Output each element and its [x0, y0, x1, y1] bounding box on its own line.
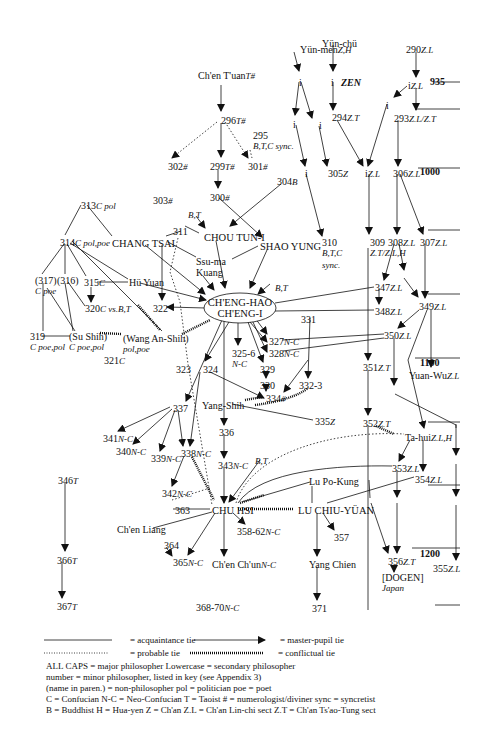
legend-master-pupil: = master-pupil tie [280, 635, 344, 646]
node-n303: 303# [153, 195, 173, 207]
zen-section-label: ZEN [341, 77, 361, 88]
node-n299: 299T# [210, 161, 235, 173]
node-tag: Z.T [347, 113, 359, 123]
node-tag: Z.L [448, 564, 460, 574]
node-text: 303 [153, 195, 168, 206]
node-n320: 320C vs.B,T [85, 303, 131, 315]
node-text: (Su Shih) [69, 331, 107, 342]
chengi-label: CH'ENG-I [207, 308, 273, 319]
node-text: 364 [164, 540, 179, 551]
node-tag: N-C [118, 434, 133, 444]
node-text: 352 [363, 418, 378, 429]
node-bt1: B,T [188, 209, 201, 221]
node-text: 294 [332, 112, 347, 123]
node-text: 330 [260, 380, 275, 391]
node-n340: 340N-C [116, 446, 146, 458]
node-n310b: sync. [322, 259, 340, 271]
node-tag: C [99, 278, 105, 288]
node-chuhsi: CHU HSI [212, 505, 254, 516]
node-text: 363 [175, 505, 190, 516]
node-chenliang: Ch'en Liang [117, 524, 166, 535]
legend-acquaintance: = acquaintance tie [130, 635, 196, 646]
node-n307: 307Z.L [420, 237, 447, 249]
node-text: 300 [210, 192, 225, 203]
node-text: 314 [60, 237, 75, 248]
node-n328: 328N-C [269, 348, 299, 360]
node-subtag: B,T,C sync. [253, 141, 294, 152]
node-n365: 365N-C [173, 557, 203, 569]
ellipse-label: CH'ENG-HAO CH'ENG-I [207, 297, 273, 319]
node-n354: 354Z.L [415, 474, 442, 486]
node-bt2: B,T [275, 282, 288, 294]
node-tahui: Ta-huiZ.L,H [405, 432, 452, 444]
node-n356: 356Z.T [388, 556, 415, 568]
node-chenchun: Ch'en Ch'unN-C [212, 559, 276, 571]
node-text: Hü Yuan [129, 277, 164, 288]
node-n329: 329 [260, 364, 275, 375]
node-text: 354 [415, 474, 430, 485]
node-text: 323 [176, 364, 191, 375]
node-tag: Z [343, 169, 348, 179]
legend-row-sects: B = Buddhist H = Hua-yen Z = Ch'an Z.L =… [46, 705, 376, 716]
node-n322: 322 [153, 303, 168, 314]
node-n305: 305Z [328, 168, 348, 180]
node-text: 365 [173, 557, 188, 568]
node-n357: 357 [334, 532, 349, 543]
node-tag: N-C [131, 447, 146, 457]
node-tag: T [73, 476, 78, 486]
node-tag: Z.L [390, 307, 402, 317]
node-tag: N-C [261, 560, 276, 570]
node-text: 331 [301, 314, 316, 325]
node-tag: C vs.B,T [100, 304, 131, 314]
node-n321: 321C [104, 355, 125, 367]
timeline-year: 1000 [420, 166, 440, 177]
node-n314: 314C pol,poe [60, 237, 110, 249]
legend-row-schools: C = Confucian N-C = Neo-Confucian T = Ta… [46, 694, 375, 705]
node-text: 357 [334, 532, 349, 543]
node-tag: Z.L/Z.T [409, 114, 436, 124]
node-subtag: N-C [232, 359, 255, 370]
chengchao-label: CH'ENG-HAO [207, 297, 273, 308]
node-n351: 351Z.T [363, 362, 390, 374]
node-text: 341 [103, 433, 118, 444]
node-tag: # [225, 193, 230, 203]
node-n343: 343N-C [218, 460, 248, 472]
node-text: Ch'en Liang [117, 524, 166, 535]
node-n348: 348Z.L [375, 306, 402, 318]
node-dogen: [DOGEN]Japan [382, 572, 424, 594]
node-n350: 350Z.L [384, 330, 411, 342]
node-subtag: C poe,pol [30, 342, 65, 353]
node-n293: 293Z.L/Z.T [394, 113, 436, 125]
node-text: 332-3 [299, 380, 322, 391]
node-n349: 349Z.L [419, 301, 446, 313]
node-text: 302 [168, 161, 183, 172]
node-text: 367 [57, 601, 72, 612]
node-n364: 364 [164, 540, 179, 551]
node-yunchu: Yün-chü [322, 38, 357, 49]
timeline-year: 1100 [420, 357, 439, 368]
node-tag: T [72, 556, 77, 566]
legend-row-number: number = minor philosopher, listed in ke… [46, 672, 261, 683]
node-text: 328 [269, 348, 284, 359]
node-text: 358-62 [237, 526, 265, 537]
node-text: 346 [58, 475, 73, 486]
node-text: Yang-Shih [202, 400, 244, 411]
node-n363: 363 [175, 505, 190, 516]
node-tag: N-C [224, 603, 239, 613]
node-text: 299 [210, 161, 225, 172]
node-yangchien: Yang Chien [309, 559, 356, 570]
node-text: 335 [315, 416, 330, 427]
node-tag: T# [236, 116, 246, 126]
node-text: 347 [375, 282, 390, 293]
node-tag: Z.L [421, 45, 433, 55]
node-text: 304 [277, 176, 292, 187]
node-tag: N-C [233, 461, 248, 471]
node-lupokung: Lu Po-Kung [309, 476, 359, 487]
node-text: 313 [81, 200, 96, 211]
node-ssuma: Ssu-maKuang [196, 256, 226, 278]
node-text: 334 [266, 393, 281, 404]
node-n334: 334# [266, 393, 286, 405]
node-text: Ssu-ma [196, 256, 226, 267]
node-tag: N-C [166, 454, 181, 464]
node-n319: 319C poe,pol [30, 331, 65, 353]
